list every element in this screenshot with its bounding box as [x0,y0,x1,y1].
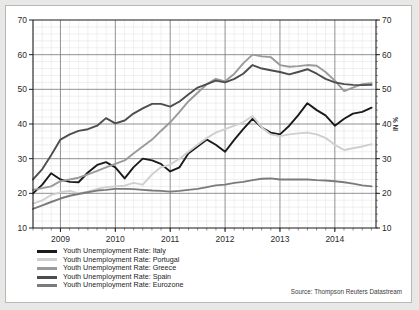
y-tick-label-right: 20 [382,188,392,198]
legend-label-eurozone: Youth Unemployment Rate: Eurozone [63,281,183,290]
x-tick-label: 2010 [106,234,125,244]
legend-swatch-greece [37,267,57,270]
y-axis-title-right: IN % [392,117,399,131]
chart-frame: 1010202030304040505060607070200920102011… [5,5,412,303]
legend-item-eurozone: Youth Unemployment Rate: Eurozone [37,281,183,290]
y-tick-label-left: 20 [18,188,28,198]
legend-swatch-italy [37,250,57,253]
y-tick-label-right: 30 [382,154,392,164]
source-note: Source: Thompson Reuters Datastream [291,288,402,295]
y-tick-label-left: 60 [18,50,28,60]
y-tick-label-left: 10 [18,223,28,233]
x-tick-label: 2014 [325,234,344,244]
y-tick-label-right: 10 [382,223,392,233]
legend-swatch-portugal [37,258,57,261]
y-tick-label-right: 60 [382,50,392,60]
x-tick-label: 2012 [216,234,235,244]
x-tick-label: 2011 [161,234,180,244]
x-tick-label: 2013 [270,234,289,244]
y-tick-label-left: 40 [18,119,28,129]
y-tick-label-right: 40 [382,119,392,129]
y-tick-label-right: 50 [382,84,392,94]
y-tick-label-left: 70 [18,15,28,25]
legend-swatch-eurozone [37,284,57,287]
y-tick-label-left: 50 [18,84,28,94]
y-tick-label-right: 70 [382,15,392,25]
y-tick-label-left: 30 [18,154,28,164]
chart-legend: Youth Unemployment Rate: Italy Youth Une… [37,247,183,290]
legend-swatch-spain [37,276,57,279]
x-tick-label: 2009 [51,234,70,244]
